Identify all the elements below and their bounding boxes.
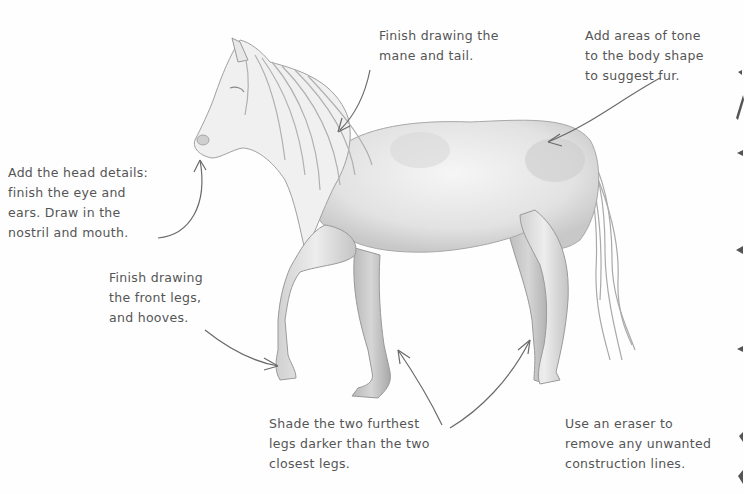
near-front-leg	[276, 225, 356, 380]
annotation-front-legs: Finish drawing the front legs, and hoove…	[109, 268, 203, 328]
far-front-leg	[352, 248, 390, 398]
annotation-shade-legs: Shade the two furthest legs darker than …	[269, 414, 430, 474]
annotation-eraser: Use an eraser to remove any unwanted con…	[565, 414, 711, 474]
illustration-page: Finish drawing the mane and tail. Add ar…	[0, 0, 744, 494]
annotation-mane-tail: Finish drawing the mane and tail.	[379, 26, 499, 66]
annotation-body-tone: Add areas of tone to the body shape to s…	[585, 26, 704, 86]
page-edge-marks	[730, 0, 744, 494]
annotation-head-details: Add the head details: finish the eye and…	[8, 163, 148, 243]
